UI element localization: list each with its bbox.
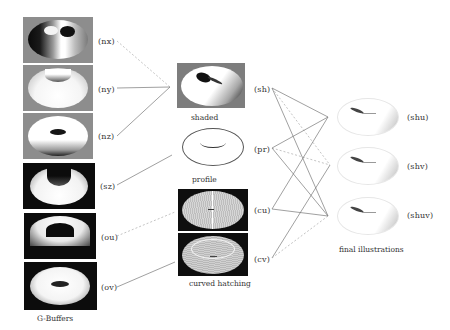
- gbuffer-nx-label: (nx): [98, 37, 115, 46]
- gbuffers-caption: G-Buffers: [37, 314, 73, 323]
- gbuffer-ov-label: (ov): [101, 283, 117, 292]
- final-shv-image: [336, 146, 402, 188]
- final-shuv-label: (shuv): [407, 211, 433, 220]
- profile-image: [180, 127, 248, 169]
- gbuffer-ny-image: [23, 65, 93, 111]
- gbuffer-sz-label: (sz): [100, 182, 115, 191]
- label-sh: (sh): [254, 85, 270, 94]
- final-shuv-image: [336, 196, 402, 238]
- final-shv-label: (shv): [407, 162, 428, 171]
- label-pr: (pr): [254, 145, 270, 154]
- gbuffer-ov-image: [24, 262, 97, 310]
- gbuffer-ny-label: (ny): [98, 85, 115, 94]
- gbuffer-ou-label: (ou): [101, 233, 118, 242]
- hatching-caption: curved hatching: [189, 279, 251, 288]
- gbuffer-ou-image: [24, 213, 96, 259]
- profile-caption: profile: [192, 175, 217, 184]
- shaded-image: [177, 63, 245, 108]
- final-shu-image: [336, 97, 402, 139]
- label-cv: (cv): [254, 255, 270, 264]
- gbuffer-nz-image: [23, 113, 93, 159]
- hatching-cu-image: [178, 189, 248, 231]
- gbuffer-nx-image: [23, 17, 93, 63]
- final-caption: final illustrations: [339, 245, 404, 254]
- gbuffer-sz-image: [23, 163, 95, 209]
- label-cu: (cu): [254, 206, 271, 215]
- final-shu-label: (shu): [407, 113, 429, 122]
- shaded-caption: shaded: [191, 113, 218, 122]
- gbuffer-nz-label: (nz): [98, 132, 114, 141]
- hatching-cv-image: [178, 233, 248, 276]
